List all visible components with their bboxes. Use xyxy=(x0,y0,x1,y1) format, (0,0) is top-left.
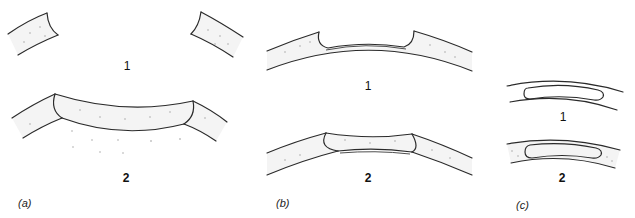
panel-b-stage-1-number: 1 xyxy=(365,79,372,93)
panel-c-stage-1-pocket xyxy=(507,81,623,110)
panel-a: 1 2 (a) xyxy=(8,12,243,209)
diagram-canvas: 1 2 (a) xyxy=(0,0,635,218)
panel-b-stage-2-number: 2 xyxy=(365,171,372,185)
panel-b-stage-1-lamellar-bed xyxy=(267,31,472,71)
panel-c-stage-1-number: 1 xyxy=(560,110,567,124)
panel-a-stage-1-number: 1 xyxy=(124,59,131,73)
panel-c-label: (c) xyxy=(516,199,529,211)
panel-b-label: (b) xyxy=(276,197,290,209)
panel-a-stage-2-graft xyxy=(12,94,227,154)
panel-c-stage-2-number: 2 xyxy=(559,171,566,185)
panel-b-stage-2-lamellar-graft xyxy=(267,133,472,175)
panel-a-stage-1-right-fragment xyxy=(191,12,243,57)
panel-a-stage-1-left-fragment xyxy=(8,13,58,55)
panel-a-label: (a) xyxy=(18,197,32,209)
panel-c-stage-2-pocket xyxy=(507,140,620,168)
panel-c: 1 2 (c) xyxy=(507,81,623,211)
panel-b: 1 2 (b) xyxy=(267,31,472,209)
panel-a-stage-2-number: 2 xyxy=(123,171,130,185)
